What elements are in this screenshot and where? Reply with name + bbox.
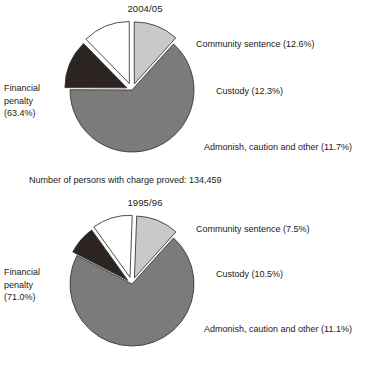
pie-chart-2004-05: 2004/05 Financial penalty (63.4%) Commun… xyxy=(0,0,386,190)
chart-caption: Number of persons with charge proved: 13… xyxy=(29,175,222,185)
chart-title: 2004/05 xyxy=(0,3,290,14)
slice-label-financial-penalty: Financial penalty (71.0%) xyxy=(4,266,66,304)
pie-chart-1995-96: 1995/96 Financial penalty (71.0%) Commun… xyxy=(0,190,386,366)
slice-label-admonish: Admonish, caution and other (11.1%) xyxy=(204,323,352,336)
pie-chart-figure: { "figure": { "background_color": "#ffff… xyxy=(0,0,386,366)
slice-label-admonish: Admonish, caution and other (11.7%) xyxy=(204,141,352,154)
slice-label-custody: Custody (12.3%) xyxy=(216,85,283,98)
slice-label-financial-penalty: Financial penalty (63.4%) xyxy=(4,82,66,120)
slice-label-community-sentence: Community sentence (7.5%) xyxy=(196,223,310,236)
chart-title: 1995/96 xyxy=(0,197,290,208)
slice-label-community-sentence: Community sentence (12.6%) xyxy=(196,38,315,51)
slice-label-custody: Custody (10.5%) xyxy=(216,268,283,281)
